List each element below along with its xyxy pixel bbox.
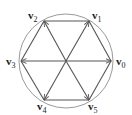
vector-arrow-v2 xyxy=(44,21,66,61)
vector-arrow-v5 xyxy=(66,61,89,100)
vertex-label-v1: v1 xyxy=(92,9,102,24)
vertex-label-v2: v2 xyxy=(28,9,38,24)
edge-v2-v3 xyxy=(21,21,44,61)
center-vectors xyxy=(21,21,111,100)
vertex-label-v0: v0 xyxy=(116,55,126,70)
vertex-label-v3: v3 xyxy=(6,55,16,70)
vertex-label-v5: v5 xyxy=(88,100,98,115)
vertex-label-v4: v4 xyxy=(37,100,47,115)
vector-arrow-v1 xyxy=(66,21,89,61)
vector-arrow-v4 xyxy=(44,61,66,100)
hexagon-vector-diagram: v0v1v2v3v4v5 xyxy=(0,0,132,115)
edge-v0-v1 xyxy=(89,21,111,61)
